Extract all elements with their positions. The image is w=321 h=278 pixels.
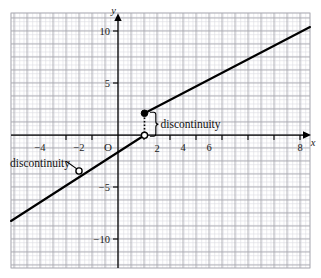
y-tick-label-neg10: −10: [94, 234, 110, 245]
graph-figure: y x O −4 −2 2 4 6 8 10 5: [0, 0, 321, 278]
x-tick-label-4: 4: [180, 142, 186, 153]
x-axis-label: x: [310, 137, 316, 148]
y-tick-label-5: 5: [105, 78, 110, 89]
x-tick-label-2: 2: [154, 143, 159, 154]
x-tick-label-neg4: −4: [34, 142, 46, 153]
removable-discontinuity-label: discontinuity: [10, 157, 70, 170]
jump-discontinuity-label: discontinuity: [161, 118, 221, 131]
origin-label: O: [104, 141, 112, 153]
y-tick-label-10: 10: [100, 26, 111, 37]
y-axis-label: y: [110, 5, 116, 16]
x-tick-label-8: 8: [297, 142, 302, 153]
open-point-marker-x2: [141, 132, 147, 138]
filled-point-marker-x2: [141, 110, 148, 117]
x-tick-label-neg2: −2: [73, 142, 84, 153]
x-tick-label-6: 6: [206, 142, 211, 153]
y-tick-label-neg5: −5: [99, 182, 110, 193]
coordinate-plane-svg: y x O −4 −2 2 4 6 8 10 5: [0, 0, 321, 278]
